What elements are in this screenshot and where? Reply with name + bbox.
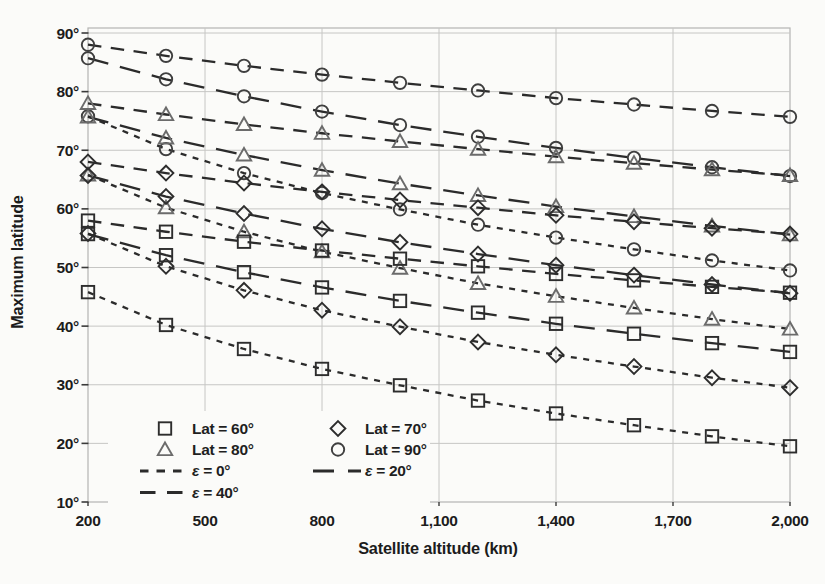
legend-label: Lat = 80°	[192, 441, 254, 458]
legend-label: Lat = 70°	[365, 420, 427, 437]
x-tick-label: 1,400	[537, 512, 574, 529]
circle-marker	[160, 143, 172, 155]
x-tick-label: 200	[76, 512, 101, 529]
y-tick-label: 70°	[56, 142, 79, 159]
x-tick-label: 800	[310, 512, 335, 529]
y-tick-label: 50°	[56, 259, 79, 276]
x-tick-label: 1,100	[420, 512, 457, 529]
y-tick-label: 80°	[56, 83, 79, 100]
x-tick-label: 1,700	[654, 512, 691, 529]
chart-canvas: 10°20°30°40°50°60°70°80°90°2005008001,10…	[0, 0, 825, 584]
x-tick-label: 500	[193, 512, 218, 529]
y-tick-label: 40°	[56, 318, 79, 335]
y-tick-label: 20°	[56, 435, 79, 452]
legend-label: ε = 40°	[192, 484, 239, 501]
triangle-marker	[159, 201, 173, 214]
y-tick-label: 60°	[56, 200, 79, 217]
figure: 10°20°30°40°50°60°70°80°90°2005008001,10…	[0, 0, 825, 584]
legend-label: ε = 0°	[192, 462, 230, 479]
y-tick-label: 90°	[56, 25, 79, 42]
square-marker	[160, 319, 172, 331]
legend-label: Lat = 90°	[365, 441, 427, 458]
triangle-marker	[237, 117, 251, 130]
y-tick-label: 10°	[56, 494, 79, 511]
legend-label: ε = 20°	[365, 462, 412, 479]
y-axis-title: Maximum latitude	[8, 186, 28, 338]
square-marker	[628, 328, 640, 340]
legend-label: Lat = 60°	[192, 420, 254, 437]
y-tick-label: 30°	[56, 376, 79, 393]
x-tick-label: 2,000	[771, 512, 808, 529]
x-axis-title: Satellite altitude (km)	[294, 539, 582, 559]
